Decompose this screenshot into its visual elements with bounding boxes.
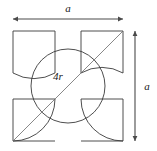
right-dimension-arrow-bottom-icon	[133, 136, 138, 141]
right-dimension-label: a	[144, 80, 150, 92]
corner-arc-top-left	[13, 73, 55, 79]
circle-diameter-label: 4r	[53, 70, 64, 82]
top-dimension-label: a	[65, 2, 71, 14]
corner-square-top-left-outline	[13, 31, 55, 73]
corner-square-bottom-right	[81, 99, 123, 141]
corner-arc-bottom-right	[81, 99, 123, 141]
figure-canvas: 4r a a	[0, 0, 157, 151]
diagonal-line	[13, 31, 123, 141]
top-dimension: a	[13, 2, 123, 21]
geometry-figure: 4r a a	[0, 0, 157, 151]
top-dimension-arrow-right-icon	[118, 17, 123, 22]
right-dimension-arrow-top-icon	[133, 31, 138, 36]
top-dimension-arrow-left-icon	[13, 17, 18, 22]
corner-square-bottom-right-outline	[81, 99, 123, 141]
right-dimension: a	[133, 31, 151, 141]
